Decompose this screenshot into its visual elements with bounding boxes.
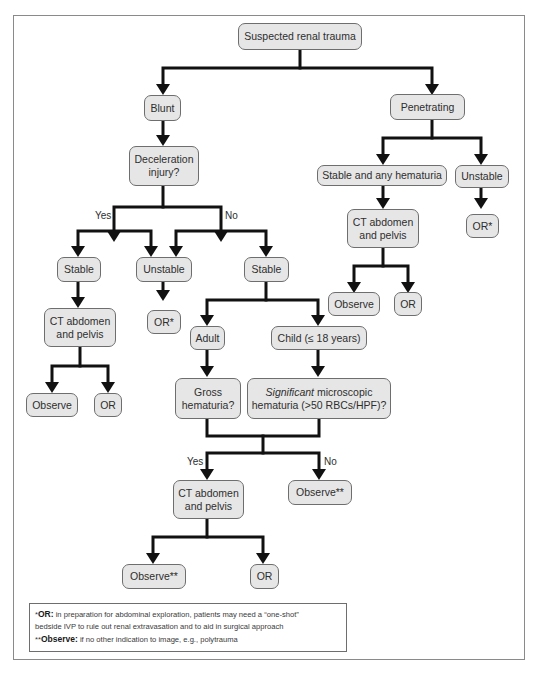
node-adult: Adult <box>190 326 225 350</box>
node-label-line: and pelvis <box>50 328 111 341</box>
footnote-term: OR: <box>38 609 54 619</box>
node-label: Observe <box>32 399 72 412</box>
node-label-line: Deceleration <box>135 153 194 166</box>
node-label: Suspected renal trauma <box>244 30 355 43</box>
node-label: Stable <box>252 263 282 276</box>
edge-label-no: No <box>225 210 238 221</box>
node-observe-blunt: Observe <box>26 393 78 417</box>
node-label: Penetrating <box>401 101 455 114</box>
node-label: OR <box>100 399 116 412</box>
node-label-line: and pelvis <box>353 229 414 242</box>
node-label: Blunt <box>151 102 175 115</box>
node-or-final: OR <box>250 564 279 589</box>
node-label: OR <box>400 298 416 311</box>
node-label: Unstable <box>143 263 184 276</box>
node-label: OR* <box>154 316 174 329</box>
node-child: Child (≤ 18 years) <box>271 326 367 350</box>
node-ct-abdomen-pelvis-final: CT abdomenand pelvis <box>173 480 244 519</box>
node-label: OR* <box>473 220 493 233</box>
node-label-line: injury? <box>135 166 194 179</box>
node-ct-abdomen-pelvis-penetrating: CT abdomenand pelvis <box>347 209 419 248</box>
node-label-line: CT abdomen <box>178 487 239 500</box>
node-label-italic: Significant <box>266 386 314 398</box>
footnote-or: *OR: in preparation for abdominal explor… <box>35 608 341 621</box>
node-no-stable: Stable <box>244 257 289 282</box>
node-or-star-unstable: OR* <box>147 310 181 334</box>
node-suspected-renal-trauma: Suspected renal trauma <box>238 23 362 50</box>
node-label: Child (≤ 18 years) <box>278 332 361 345</box>
node-or-blunt: OR <box>94 393 122 417</box>
node-label: Observe <box>334 298 374 311</box>
footnote-observe: **Observe: if no other indication to ima… <box>35 633 341 646</box>
footnote-text: if no other indication to image, e.g., p… <box>78 635 238 644</box>
node-penetrating-unstable: Unstable <box>455 165 509 188</box>
footnote-text: bedside IVP to rule out renal extravasat… <box>35 621 341 633</box>
node-label-line: Gross <box>182 386 235 399</box>
node-ct-abdomen-pelvis-blunt: CT abdomenand pelvis <box>44 308 116 347</box>
edge-label-yes: Yes <box>187 456 203 467</box>
footnote-term: Observe: <box>41 634 78 644</box>
node-observe-double-star-no: Observe** <box>288 480 352 505</box>
node-blunt: Blunt <box>144 95 181 121</box>
node-or-star-penetrating: OR* <box>466 214 499 238</box>
node-gross-hematuria: Grosshematuria? <box>175 378 241 419</box>
node-or-penetrating: OR <box>394 292 422 316</box>
node-label: Adult <box>196 332 220 345</box>
node-label-line: hematuria? <box>182 399 235 412</box>
node-label: Stable and any hematuria <box>322 169 442 182</box>
node-significant-microscopic-hematuria: Significant microscopichematuria (>50 RB… <box>247 378 391 419</box>
node-observe-penetrating: Observe <box>328 292 380 316</box>
footnote-text: in preparation for abdominal exploration… <box>54 610 299 619</box>
node-label-line: hematuria (>50 RBCs/HPF)? <box>252 399 387 412</box>
node-yes-unstable: Unstable <box>136 257 192 282</box>
node-yes-stable: Stable <box>57 257 101 282</box>
node-stable-any-hematuria: Stable and any hematuria <box>317 165 447 186</box>
footnote-box: *OR: in preparation for abdominal explor… <box>29 603 347 652</box>
node-label-line: CT abdomen <box>353 216 414 229</box>
node-label-line: and pelvis <box>178 500 239 513</box>
node-label: Observe** <box>296 486 344 499</box>
node-label: Observe** <box>130 570 178 583</box>
node-label-line: CT abdomen <box>50 315 111 328</box>
node-penetrating: Penetrating <box>390 94 465 120</box>
node-deceleration-injury: Decelerationinjury? <box>129 146 199 186</box>
node-label-line: microscopic <box>314 386 372 398</box>
node-label: Unstable <box>461 170 502 183</box>
edge-label-yes: Yes <box>95 210 111 221</box>
node-label: OR <box>257 570 273 583</box>
node-observe-double-star-final: Observe** <box>122 564 186 589</box>
node-label: Stable <box>64 263 94 276</box>
edge-label-no: No <box>324 456 337 467</box>
